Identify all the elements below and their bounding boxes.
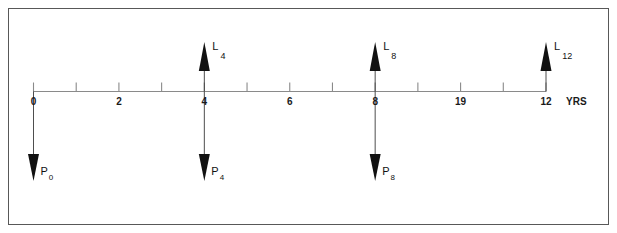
axis-tick-label: 0 xyxy=(31,96,37,107)
diagram-canvas: 024681912 YRS L4L8L12P0P4P8 xyxy=(0,0,617,233)
arrow-label-subscript: 8 xyxy=(390,173,395,182)
arrow-head-down xyxy=(370,154,381,181)
axis-tick-label: 4 xyxy=(202,96,208,107)
arrow-label-subscript: 8 xyxy=(389,51,396,61)
arrow-label-main: P xyxy=(41,165,48,177)
arrow-label-subscript: 4 xyxy=(218,51,225,61)
axis-tick-label: 6 xyxy=(287,96,293,107)
arrow-L4-label: L4 xyxy=(212,44,225,58)
arrow-label-subscript: 0 xyxy=(48,173,53,182)
arrow-P0-label: P0 xyxy=(41,166,54,180)
arrow-P4-label: P4 xyxy=(211,166,224,180)
arrow-label-main: P xyxy=(382,165,389,177)
arrow-L12-label: L12 xyxy=(554,44,572,58)
axis-tick-label: 12 xyxy=(540,96,551,107)
arrow-label-subscript: 4 xyxy=(219,173,224,182)
arrow-label-subscript: 12 xyxy=(560,51,572,61)
arrow-head-down xyxy=(28,154,39,181)
arrow-P8-label: P8 xyxy=(382,166,395,180)
up-arrow-group xyxy=(199,42,552,92)
arrow-label-main: P xyxy=(211,165,218,177)
axis-tick-label: 2 xyxy=(116,96,122,107)
arrow-L8-label: L8 xyxy=(383,44,396,58)
axis-tick-label: 19 xyxy=(455,96,466,107)
axis-unit-label: YRS xyxy=(566,96,587,107)
axis-tick-group xyxy=(34,83,547,92)
arrow-head-down xyxy=(199,154,210,181)
axis-tick-label: 8 xyxy=(372,96,378,107)
arrow-head-up xyxy=(370,42,381,71)
arrow-head-up xyxy=(199,42,210,71)
arrow-head-up xyxy=(541,42,552,71)
timeline-plot xyxy=(0,0,617,233)
